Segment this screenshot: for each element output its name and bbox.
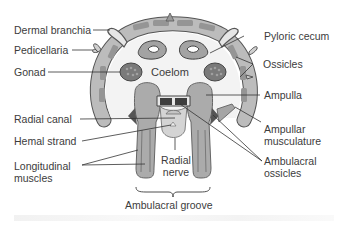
label-ambulacral-ossicles-line1: Ambulacral	[264, 155, 317, 167]
label-longitudinal-muscles-line2: muscles	[14, 172, 53, 184]
label-ambulacral-ossicles-line2: ossicles	[264, 167, 301, 179]
label-ambulacral-groove: Ambulacral groove	[125, 199, 213, 211]
label-gonad: Gonad	[14, 66, 46, 78]
ambulacral-groove-brace	[136, 187, 210, 197]
label-radial-nerve-line2: nerve	[156, 166, 196, 178]
label-ampulla: Ampulla	[264, 89, 302, 101]
label-coelom: Coelom	[151, 66, 189, 78]
label-radial-canal: Radial canal	[14, 113, 72, 125]
label-ossicles: Ossicles	[263, 58, 303, 70]
label-ampullar-musculature-line2: musculature	[264, 135, 321, 147]
label-hemal-strand: Hemal strand	[14, 135, 76, 147]
label-ampullar-musculature-line1: Ampullar	[264, 123, 305, 135]
label-radial-nerve-line1: Radial	[156, 154, 196, 166]
label-pyloric-cecum: Pyloric cecum	[264, 30, 329, 42]
label-longitudinal-muscles-line1: Longitudinal	[14, 160, 71, 172]
faded-caption-band	[14, 215, 334, 221]
label-pedicellaria: Pedicellaria	[14, 44, 68, 56]
label-dermal-branchia: Dermal branchia	[14, 24, 91, 36]
